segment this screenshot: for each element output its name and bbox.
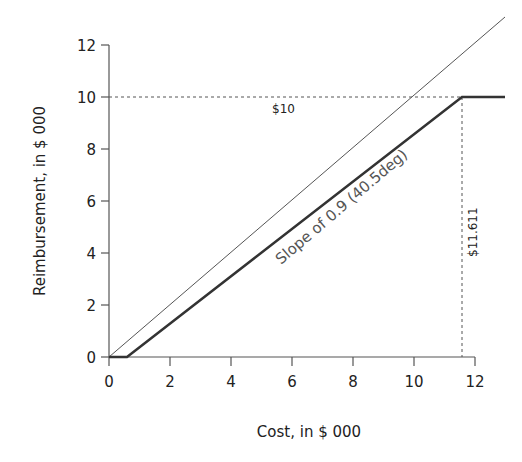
svg-text:0: 0 bbox=[104, 373, 114, 391]
svg-text:10: 10 bbox=[77, 89, 96, 107]
x-axis-label: Cost, in $ 000 bbox=[257, 423, 361, 441]
svg-text:8: 8 bbox=[348, 373, 358, 391]
slope-annotation: Slope of 0.9 (40.5deg) bbox=[272, 146, 411, 269]
y-axis-label: Reimbursement, in $ 000 bbox=[31, 106, 49, 296]
y-ticks bbox=[101, 45, 109, 357]
svg-text:8: 8 bbox=[86, 141, 96, 159]
x-ticks bbox=[109, 357, 475, 366]
svg-text:10: 10 bbox=[404, 373, 423, 391]
svg-text:12: 12 bbox=[77, 37, 96, 55]
x-tick-labels: 0 2 4 6 8 10 12 bbox=[104, 373, 484, 391]
svg-text:6: 6 bbox=[287, 373, 297, 391]
svg-text:12: 12 bbox=[465, 373, 484, 391]
vline-label: $11.611 bbox=[466, 207, 480, 257]
chart: 0 2 4 6 8 10 12 0 2 4 6 8 10 12 $10 $11.… bbox=[0, 0, 522, 462]
45-degree-line bbox=[109, 17, 505, 357]
hline-label: $10 bbox=[272, 102, 295, 116]
svg-text:2: 2 bbox=[86, 297, 96, 315]
svg-text:4: 4 bbox=[226, 373, 236, 391]
svg-text:2: 2 bbox=[165, 373, 175, 391]
y-tick-labels: 0 2 4 6 8 10 12 bbox=[77, 37, 96, 367]
svg-text:4: 4 bbox=[86, 245, 96, 263]
svg-text:6: 6 bbox=[86, 193, 96, 211]
svg-text:0: 0 bbox=[86, 349, 96, 367]
